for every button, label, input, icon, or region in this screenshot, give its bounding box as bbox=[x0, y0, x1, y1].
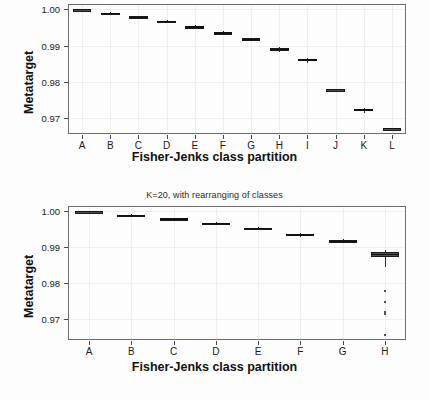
x-tick-mark bbox=[300, 341, 301, 345]
median-g bbox=[329, 241, 357, 242]
x-tick-label-j: J bbox=[333, 140, 338, 151]
x-tick-label-c: C bbox=[135, 140, 142, 151]
x-tick-label-d: D bbox=[163, 140, 170, 151]
median-f bbox=[214, 32, 233, 33]
median-b bbox=[117, 215, 145, 216]
x-tick-mark bbox=[385, 341, 386, 345]
gridline-horizontal bbox=[69, 319, 405, 320]
gridline-vertical bbox=[167, 5, 168, 133]
x-tick-label-h: H bbox=[276, 140, 283, 151]
x-tick-mark bbox=[336, 135, 337, 139]
gridline-vertical bbox=[385, 207, 386, 339]
x-tick-label-b: B bbox=[128, 346, 135, 357]
y-tick-mark bbox=[64, 319, 68, 320]
gridline-horizontal bbox=[69, 283, 405, 284]
x-tick-mark bbox=[82, 135, 83, 139]
gridline-vertical bbox=[364, 5, 365, 133]
x-axis-title-top: Fisher-Jenks class partition bbox=[0, 150, 429, 164]
median-d bbox=[157, 21, 176, 22]
median-c bbox=[160, 218, 188, 219]
y-tick-mark bbox=[64, 9, 68, 10]
median-h bbox=[270, 49, 289, 50]
outlier-point bbox=[384, 313, 386, 315]
median-k bbox=[354, 109, 373, 110]
gridline-horizontal bbox=[69, 118, 405, 119]
y-tick-label: 0.99 bbox=[24, 242, 60, 253]
median-j bbox=[326, 89, 345, 90]
median-l bbox=[383, 128, 402, 129]
x-tick-mark bbox=[216, 341, 217, 345]
x-tick-mark bbox=[258, 341, 259, 345]
gridline-vertical bbox=[307, 5, 308, 133]
outlier-point bbox=[384, 334, 386, 336]
panel-bottom-title: K=20, with rearranging of classes bbox=[0, 190, 429, 200]
x-tick-label-e: E bbox=[191, 140, 198, 151]
x-tick-label-h: H bbox=[381, 346, 388, 357]
median-a bbox=[73, 9, 92, 10]
gridline-vertical bbox=[89, 207, 90, 339]
x-tick-mark bbox=[195, 135, 196, 139]
outlier-point bbox=[384, 290, 386, 292]
gridline-vertical bbox=[392, 5, 393, 133]
gridline-vertical bbox=[110, 5, 111, 133]
median-c bbox=[129, 17, 148, 18]
x-tick-label-e: E bbox=[255, 346, 262, 357]
x-tick-mark bbox=[131, 341, 132, 345]
y-tick-label: 1.00 bbox=[24, 206, 60, 217]
x-tick-mark bbox=[251, 135, 252, 139]
panel-top: Metatarget Fisher-Jenks class partition … bbox=[0, 0, 429, 180]
gridline-horizontal bbox=[69, 247, 405, 248]
x-tick-mark bbox=[307, 135, 308, 139]
median-e bbox=[244, 228, 272, 229]
y-tick-mark bbox=[64, 247, 68, 248]
median-d bbox=[202, 223, 230, 224]
x-tick-mark bbox=[343, 341, 344, 345]
x-tick-label-f: F bbox=[297, 346, 303, 357]
y-tick-label: 0.99 bbox=[24, 40, 60, 51]
x-tick-mark bbox=[174, 341, 175, 345]
x-tick-label-f: F bbox=[220, 140, 226, 151]
gridline-vertical bbox=[336, 5, 337, 133]
y-tick-mark bbox=[64, 211, 68, 212]
x-axis-title-bottom: Fisher-Jenks class partition bbox=[0, 360, 429, 374]
y-tick-label: 0.97 bbox=[24, 313, 60, 324]
x-tick-label-a: A bbox=[79, 140, 86, 151]
x-tick-mark bbox=[89, 341, 90, 345]
x-tick-mark bbox=[364, 135, 365, 139]
y-tick-mark bbox=[64, 46, 68, 47]
panel-bottom: K=20, with rearranging of classes Metata… bbox=[0, 188, 429, 400]
gridline-horizontal bbox=[69, 211, 405, 212]
x-tick-mark bbox=[392, 135, 393, 139]
median-i bbox=[298, 59, 317, 60]
gridline-vertical bbox=[223, 5, 224, 133]
median-f bbox=[286, 234, 314, 235]
x-tick-label-a: A bbox=[86, 346, 93, 357]
x-tick-mark bbox=[223, 135, 224, 139]
y-tick-label: 0.98 bbox=[24, 277, 60, 288]
x-tick-label-g: G bbox=[247, 140, 255, 151]
x-tick-label-b: B bbox=[107, 140, 114, 151]
gridline-vertical bbox=[195, 5, 196, 133]
median-a bbox=[75, 211, 103, 212]
gridline-horizontal bbox=[69, 9, 405, 10]
x-tick-label-d: D bbox=[212, 346, 219, 357]
y-tick-label: 0.98 bbox=[24, 76, 60, 87]
gridline-horizontal bbox=[69, 82, 405, 83]
gridline-vertical bbox=[343, 207, 344, 339]
whisker-lower bbox=[385, 257, 386, 267]
gridline-vertical bbox=[300, 207, 301, 339]
x-tick-mark bbox=[167, 135, 168, 139]
y-tick-label: 1.00 bbox=[24, 4, 60, 15]
gridline-vertical bbox=[251, 5, 252, 133]
gridline-horizontal bbox=[69, 46, 405, 47]
median-b bbox=[101, 13, 120, 14]
x-tick-label-l: L bbox=[389, 140, 395, 151]
x-tick-label-i: I bbox=[306, 140, 309, 151]
gridline-vertical bbox=[131, 207, 132, 339]
x-tick-label-g: G bbox=[339, 346, 347, 357]
x-tick-mark bbox=[279, 135, 280, 139]
boxplot-figure: Metatarget Fisher-Jenks class partition … bbox=[0, 0, 429, 400]
median-g bbox=[242, 39, 261, 40]
plot-area-top bbox=[68, 4, 406, 134]
median-h bbox=[371, 254, 399, 255]
